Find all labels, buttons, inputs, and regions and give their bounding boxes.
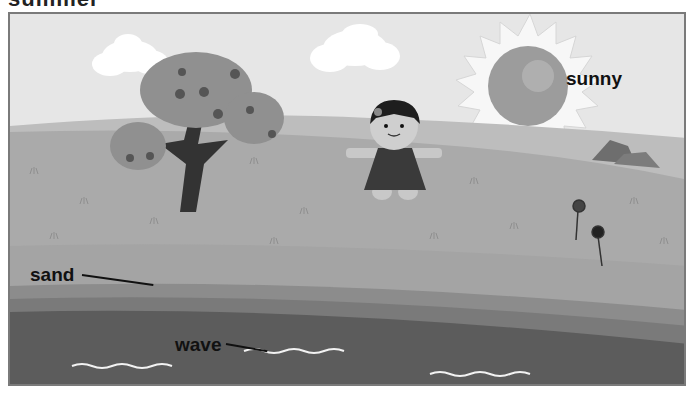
summer-scene-frame: sunny sand wave xyxy=(8,12,686,386)
page-title-partial: summer xyxy=(8,0,100,12)
wave-label: wave xyxy=(175,334,221,356)
sand-label: sand xyxy=(30,264,74,286)
sunny-label: sunny xyxy=(566,68,622,90)
